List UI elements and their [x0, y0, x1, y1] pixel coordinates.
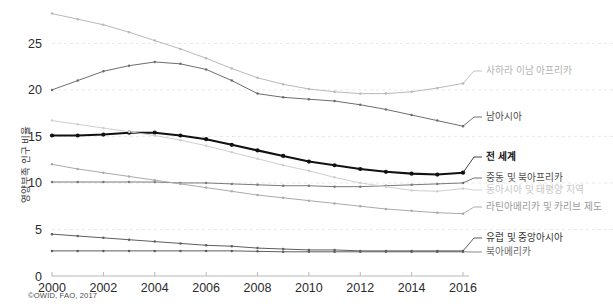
series-marker-1-1: [76, 79, 79, 82]
series-marker-4-9: [282, 164, 285, 167]
y-axis-title: 영양부족 인구 비율: [20, 126, 31, 203]
series-marker-2-8: [255, 148, 259, 152]
series-marker-0-9: [282, 83, 285, 86]
series-marker-1-2: [102, 70, 105, 73]
series-marker-7-15: [436, 251, 439, 254]
series-marker-7-8: [256, 250, 259, 253]
series-marker-4-3: [128, 131, 131, 134]
series-marker-6-6: [205, 244, 208, 247]
series-marker-6-8: [256, 247, 259, 250]
chart-container: 0510152025 20002002200420062008201020122…: [0, 0, 613, 308]
series-marker-6-4: [154, 240, 157, 243]
series-marker-0-3: [128, 31, 131, 34]
leader-line-4: [463, 189, 482, 190]
series-marker-2-0: [50, 133, 54, 137]
series-marker-3-0: [51, 181, 54, 184]
series-marker-6-5: [179, 242, 182, 245]
series-marker-4-11: [333, 176, 336, 179]
line-chart-svg: 0510152025 20002002200420062008201020122…: [0, 0, 613, 308]
series-marker-2-15: [435, 172, 439, 176]
series-marker-6-2: [102, 237, 105, 240]
data-series: [50, 12, 465, 253]
series-marker-0-15: [436, 87, 439, 90]
series-marker-4-2: [102, 127, 105, 130]
series-line-2: [52, 133, 463, 175]
series-marker-0-13: [385, 92, 388, 95]
leader-line-5: [463, 207, 482, 214]
x-tick-label-2006: 2006: [192, 281, 220, 295]
series-marker-1-9: [282, 96, 285, 99]
series-label-4: 동아시아 및 태평양 지역: [486, 184, 584, 195]
series-marker-2-5: [178, 133, 182, 137]
series-marker-2-12: [358, 167, 362, 171]
series-marker-7-3: [128, 250, 131, 253]
series-marker-7-0: [51, 250, 54, 253]
series-marker-4-15: [436, 190, 439, 193]
series-marker-4-1: [76, 123, 79, 126]
series-marker-1-13: [385, 108, 388, 111]
series-marker-7-10: [308, 251, 311, 254]
series-marker-1-5: [179, 63, 182, 66]
series-marker-5-4: [154, 179, 157, 182]
series-marker-1-14: [410, 114, 413, 117]
series-marker-3-11: [333, 185, 336, 188]
source-attribution: ©OWID, FAO, 2017: [28, 291, 97, 300]
series-marker-2-7: [230, 143, 234, 147]
series-marker-2-13: [384, 170, 388, 174]
series-marker-5-0: [51, 163, 54, 166]
series-marker-2-10: [307, 159, 311, 163]
x-tick-label-2008: 2008: [244, 281, 272, 295]
series-marker-4-14: [410, 189, 413, 192]
series-marker-0-14: [410, 91, 413, 94]
series-marker-1-0: [51, 89, 54, 92]
series-marker-0-4: [154, 39, 157, 42]
series-label-7: 북아메리카: [486, 246, 531, 257]
series-label-5: 라틴아메리카 및 카리브 제도: [486, 201, 602, 212]
series-marker-4-12: [359, 182, 362, 185]
leader-line-2: [463, 157, 482, 173]
series-marker-7-5: [179, 250, 182, 253]
series-marker-5-9: [282, 197, 285, 200]
series-marker-0-7: [231, 67, 234, 70]
series-marker-4-6: [205, 144, 208, 147]
series-marker-7-13: [385, 251, 388, 254]
series-marker-0-1: [76, 18, 79, 21]
y-tick-label-25: 25: [28, 37, 42, 51]
series-marker-3-8: [256, 184, 259, 187]
x-tick-label-2010: 2010: [295, 281, 323, 295]
x-tick-label-2004: 2004: [141, 281, 169, 295]
y-tick-label-20: 20: [28, 83, 42, 97]
series-label-3: 중동 및 북아프리카: [486, 172, 563, 183]
series-marker-4-13: [385, 185, 388, 188]
series-marker-1-4: [154, 61, 157, 64]
series-marker-1-8: [256, 92, 259, 95]
series-marker-1-7: [231, 79, 234, 82]
x-tick-label-2014: 2014: [398, 281, 426, 295]
series-labels: 사하라 이남 아프리카남아시아전 세계중동 및 북아프리카동아시아 및 태평양 …: [486, 64, 602, 257]
series-marker-4-4: [154, 134, 157, 137]
series-marker-5-5: [179, 183, 182, 186]
series-marker-3-3: [128, 181, 131, 184]
leader-line-1: [463, 117, 482, 126]
series-marker-7-7: [231, 250, 234, 253]
series-marker-5-12: [359, 205, 362, 208]
series-marker-0-6: [205, 57, 208, 60]
series-marker-6-3: [128, 238, 131, 241]
series-marker-3-14: [410, 184, 413, 187]
x-tick-label-2016: 2016: [449, 281, 477, 295]
series-marker-4-7: [231, 151, 234, 154]
series-marker-7-12: [359, 251, 362, 254]
series-marker-1-15: [436, 119, 439, 122]
series-marker-7-1: [76, 250, 79, 253]
series-marker-3-6: [205, 182, 208, 185]
series-marker-5-2: [102, 171, 105, 174]
series-marker-5-1: [76, 168, 79, 171]
series-marker-3-15: [436, 183, 439, 186]
series-marker-3-12: [359, 185, 362, 188]
series-marker-0-12: [359, 92, 362, 95]
series-marker-5-3: [128, 175, 131, 178]
y-tick-label-5: 5: [35, 223, 42, 237]
series-label-1: 남아시아: [486, 111, 522, 122]
series-marker-6-7: [231, 245, 234, 248]
series-marker-3-1: [76, 181, 79, 184]
